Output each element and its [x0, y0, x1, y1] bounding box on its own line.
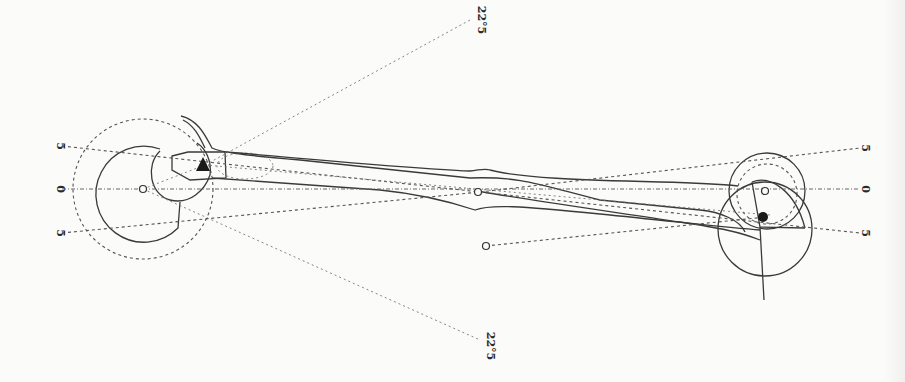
left-pivot-marker [140, 186, 147, 193]
left-label-lower: 5 [54, 229, 67, 237]
line-5-upper-right [480, 148, 860, 192]
right-pivot-marker [762, 188, 769, 195]
line-5-lower-left [62, 192, 480, 233]
left-label-middle: 0 [54, 185, 67, 193]
line-lower-point-to-right [486, 217, 766, 246]
scan-page-edge [883, 0, 905, 382]
line-triangle-to-left-center [143, 165, 205, 189]
line-5-lower-right [480, 192, 860, 233]
ray-22-5-upper [205, 20, 470, 165]
arm-hook-inner [183, 120, 205, 148]
right-label-lower: 5 [859, 229, 872, 237]
lever-diagram: 5 0 5 5 0 5 22°5 22°5 [0, 0, 905, 382]
ray-22-5-lower [143, 189, 480, 340]
center-pivot-marker [475, 189, 482, 196]
line-5-upper-left [62, 146, 480, 192]
left-joint-head [96, 146, 180, 242]
right-sector [752, 180, 805, 300]
right-label-middle: 0 [859, 185, 872, 193]
right-label-upper: 5 [859, 144, 872, 152]
left-label-upper: 5 [54, 142, 67, 150]
lower-point-marker [483, 243, 490, 250]
left-contact-triangle-icon [196, 157, 210, 171]
arm-upper-edge [226, 152, 738, 186]
arm-hook [181, 116, 745, 232]
right-contact-dot-icon [758, 212, 768, 222]
angle-label-bottom: 22°5 [484, 332, 497, 360]
angle-label-top: 22°5 [475, 6, 488, 34]
